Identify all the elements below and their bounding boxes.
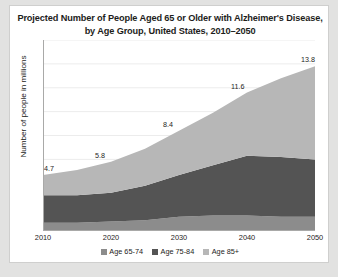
- chart-legend: Age 65-74Age 75-84Age 85+: [10, 247, 329, 256]
- x-tick-label-2030: 2030: [171, 233, 187, 242]
- data-label-2030: 8.4: [163, 120, 173, 129]
- x-tick-label-2040: 2040: [239, 233, 255, 242]
- plot-wrapper: Number of people in millions 20102020203…: [10, 6, 329, 263]
- legend-label: Age 75-84: [161, 247, 195, 256]
- legend-item-1[interactable]: Age 75-84: [152, 247, 194, 256]
- chart-card: Projected Number of People Aged 65 or Ol…: [9, 5, 329, 263]
- data-label-2020: 5.8: [95, 151, 105, 160]
- legend-item-0[interactable]: Age 65-74: [101, 247, 143, 256]
- x-tick-label-2020: 2020: [103, 233, 119, 242]
- legend-swatch-icon: [203, 249, 209, 255]
- stacked-area-plot: [43, 40, 315, 231]
- legend-label: Age 65-74: [109, 247, 143, 256]
- data-label-2040: 11.6: [231, 82, 244, 91]
- plot-area: [43, 40, 315, 231]
- data-label-2050: 13.8: [301, 55, 315, 64]
- legend-swatch-icon: [101, 249, 107, 255]
- page-background: Projected Number of People Aged 65 or Ol…: [0, 0, 338, 277]
- x-tick-label-2050: 2050: [307, 233, 323, 242]
- legend-label: Age 85+: [212, 247, 239, 256]
- x-tick-label-2010: 2010: [35, 233, 51, 242]
- x-axis: 20102020203020402050: [43, 233, 315, 245]
- legend-swatch-icon: [152, 249, 158, 255]
- data-label-2010: 4.7: [44, 164, 54, 173]
- legend-item-2[interactable]: Age 85+: [203, 247, 239, 256]
- y-axis-title: Number of people in millions: [19, 32, 28, 182]
